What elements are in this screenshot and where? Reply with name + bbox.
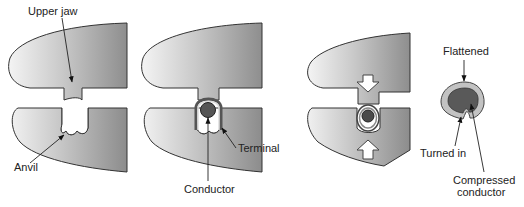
label-terminal: Terminal xyxy=(238,142,280,154)
label-anvil: Anvil xyxy=(14,161,38,173)
crimp-diagram: Upper jaw Anvil Terminal Conductor Flatt… xyxy=(0,0,524,207)
compressed-conductor-shape xyxy=(448,88,478,113)
label-upper-jaw: Upper jaw xyxy=(28,5,78,17)
upper-jaw-2 xyxy=(142,23,262,100)
label-compressed-line2: conductor xyxy=(457,186,506,198)
stage-2-terminal-placed: Terminal Conductor xyxy=(142,23,280,195)
label-conductor: Conductor xyxy=(184,183,235,195)
stage-3-die-closing xyxy=(308,33,410,166)
upper-jaw xyxy=(9,23,127,100)
label-compressed-line1: Compressed xyxy=(453,174,515,186)
conductor-circle-3 xyxy=(362,110,374,122)
upper-jaw-3 xyxy=(308,33,410,104)
leader-turned-in xyxy=(455,117,461,146)
conductor-circle xyxy=(201,103,216,118)
stage-1-open-die: Upper jaw Anvil xyxy=(9,5,127,173)
label-turned-in: Turned in xyxy=(420,147,466,159)
stage-4-finished-crimp: Flattened Turned in Compressed conductor xyxy=(420,45,515,198)
label-flattened: Flattened xyxy=(443,45,489,57)
